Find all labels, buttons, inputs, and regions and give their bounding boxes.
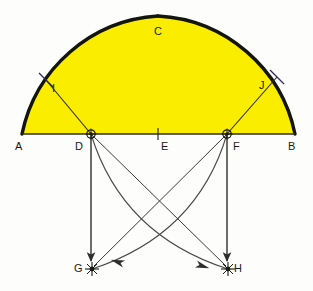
geometric-construction-figure <box>0 0 313 291</box>
point-label-E: E <box>161 141 168 152</box>
diagonal-F-G <box>94 134 227 266</box>
point-label-I: I <box>52 83 55 94</box>
point-label-C: C <box>154 26 162 37</box>
diagonal-D-H <box>91 134 226 266</box>
point-label-J: J <box>259 80 265 91</box>
point-label-D: D <box>75 141 83 152</box>
marker-point-H <box>221 262 235 276</box>
diagram-canvas: A B C D E F G H I J <box>0 0 313 291</box>
point-label-H: H <box>234 263 242 274</box>
marker-point-G <box>85 262 99 276</box>
point-label-G: G <box>74 263 83 274</box>
point-label-B: B <box>288 141 295 152</box>
point-label-A: A <box>15 141 22 152</box>
point-label-F: F <box>233 141 240 152</box>
